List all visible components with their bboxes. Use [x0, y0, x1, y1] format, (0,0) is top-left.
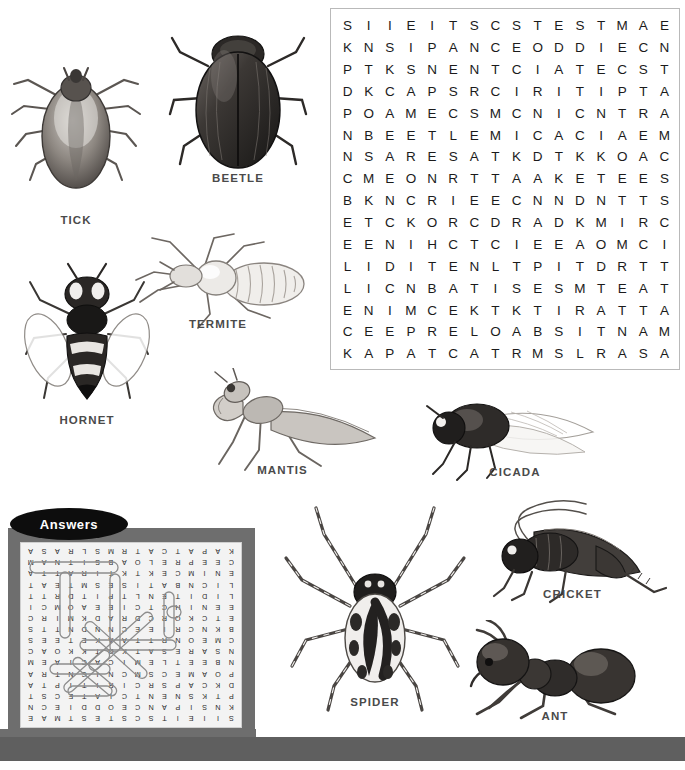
grid-cell[interactable]: A — [464, 146, 485, 168]
grid-cell[interactable]: S — [654, 190, 675, 212]
grid-cell[interactable]: D — [569, 190, 590, 212]
grid-cell[interactable]: I — [485, 278, 506, 300]
grid-cell[interactable]: E — [527, 278, 548, 300]
grid-cell[interactable]: I — [612, 212, 633, 234]
grid-cell[interactable]: T — [591, 168, 612, 190]
grid-cell[interactable]: R — [464, 81, 485, 103]
grid-cell[interactable]: A — [400, 81, 421, 103]
grid-cell[interactable]: A — [612, 124, 633, 146]
grid-cell[interactable]: A — [633, 321, 654, 343]
grid-cell[interactable]: N — [527, 103, 548, 125]
grid-cell[interactable]: A — [569, 234, 590, 256]
grid-cell[interactable]: K — [569, 212, 590, 234]
grid-cell[interactable]: I — [422, 15, 443, 37]
grid-cell[interactable]: S — [506, 278, 527, 300]
grid-cell[interactable]: N — [422, 59, 443, 81]
grid-cell[interactable]: T — [506, 256, 527, 278]
grid-cell[interactable]: T — [591, 321, 612, 343]
grid-cell[interactable]: L — [337, 256, 358, 278]
grid-cell[interactable]: T — [485, 168, 506, 190]
grid-cell[interactable]: T — [422, 343, 443, 365]
grid-cell[interactable]: T — [485, 59, 506, 81]
grid-cell[interactable]: E — [337, 212, 358, 234]
grid-cell[interactable]: R — [506, 212, 527, 234]
grid-cell[interactable]: R — [506, 343, 527, 365]
grid-cell[interactable]: S — [443, 146, 464, 168]
grid-cell[interactable]: N — [400, 278, 421, 300]
grid-cell[interactable]: A — [506, 168, 527, 190]
grid-cell[interactable]: K — [506, 146, 527, 168]
grid-cell[interactable]: T — [654, 278, 675, 300]
grid-cell[interactable]: I — [548, 256, 569, 278]
grid-cell[interactable]: S — [548, 278, 569, 300]
grid-cell[interactable]: D — [527, 146, 548, 168]
grid-cell[interactable]: K — [548, 168, 569, 190]
grid-cell[interactable]: S — [633, 59, 654, 81]
grid-cell[interactable]: A — [633, 15, 654, 37]
grid-cell[interactable]: B — [337, 190, 358, 212]
grid-cell[interactable]: C — [485, 81, 506, 103]
grid-cell[interactable]: D — [379, 256, 400, 278]
grid-cell[interactable]: T — [654, 256, 675, 278]
grid-cell[interactable]: E — [337, 234, 358, 256]
grid-cell[interactable]: E — [464, 124, 485, 146]
grid-cell[interactable]: E — [485, 190, 506, 212]
grid-cell[interactable]: C — [654, 212, 675, 234]
grid-cell[interactable]: A — [591, 299, 612, 321]
grid-cell[interactable]: A — [654, 103, 675, 125]
grid-cell[interactable]: T — [612, 103, 633, 125]
grid-cell[interactable]: N — [591, 190, 612, 212]
grid-cell[interactable]: T — [527, 299, 548, 321]
grid-cell[interactable]: T — [654, 59, 675, 81]
grid-cell[interactable]: E — [379, 321, 400, 343]
grid-cell[interactable]: P — [337, 103, 358, 125]
grid-cell[interactable]: A — [633, 146, 654, 168]
grid-cell[interactable]: S — [548, 321, 569, 343]
grid-cell[interactable]: I — [506, 234, 527, 256]
grid-cell[interactable]: E — [527, 234, 548, 256]
grid-cell[interactable]: T — [548, 146, 569, 168]
grid-cell[interactable]: I — [400, 234, 421, 256]
grid-cell[interactable]: I — [379, 299, 400, 321]
grid-cell[interactable]: O — [591, 234, 612, 256]
grid-cell[interactable]: N — [422, 168, 443, 190]
grid-cell[interactable]: L — [464, 321, 485, 343]
grid-cell[interactable]: T — [591, 278, 612, 300]
grid-cell[interactable]: R — [422, 190, 443, 212]
grid-cell[interactable]: N — [527, 190, 548, 212]
grid-cell[interactable]: C — [443, 343, 464, 365]
grid-cell[interactable]: O — [527, 37, 548, 59]
grid-cell[interactable]: I — [400, 256, 421, 278]
grid-cell[interactable]: R — [569, 299, 590, 321]
grid-cell[interactable]: L — [485, 256, 506, 278]
grid-cell[interactable]: H — [422, 234, 443, 256]
grid-cell[interactable]: C — [337, 321, 358, 343]
grid-cell[interactable]: M — [527, 343, 548, 365]
grid-cell[interactable]: P — [422, 37, 443, 59]
grid-cell[interactable]: T — [527, 15, 548, 37]
grid-cell[interactable]: E — [591, 59, 612, 81]
grid-cell[interactable]: B — [422, 278, 443, 300]
grid-cell[interactable]: A — [548, 59, 569, 81]
grid-cell[interactable]: A — [443, 278, 464, 300]
grid-cell[interactable]: S — [400, 59, 421, 81]
grid-cell[interactable]: D — [485, 212, 506, 234]
grid-cell[interactable]: B — [358, 124, 379, 146]
grid-cell[interactable]: E — [358, 321, 379, 343]
grid-cell[interactable]: E — [633, 124, 654, 146]
grid-cell[interactable]: S — [548, 343, 569, 365]
grid-cell[interactable]: R — [633, 103, 654, 125]
grid-cell[interactable]: P — [400, 321, 421, 343]
grid-cell[interactable]: T — [464, 234, 485, 256]
grid-cell[interactable]: L — [443, 124, 464, 146]
grid-cell[interactable]: S — [464, 103, 485, 125]
grid-cell[interactable]: D — [548, 37, 569, 59]
grid-cell[interactable]: C — [506, 103, 527, 125]
grid-cell[interactable]: E — [443, 321, 464, 343]
grid-cell[interactable]: I — [591, 81, 612, 103]
grid-cell[interactable]: C — [400, 190, 421, 212]
grid-cell[interactable]: S — [337, 15, 358, 37]
grid-cell[interactable]: K — [379, 59, 400, 81]
grid-cell[interactable]: C — [654, 146, 675, 168]
grid-cell[interactable]: A — [612, 343, 633, 365]
